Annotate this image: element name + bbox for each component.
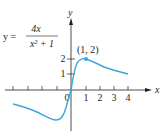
equation: y = 4x x² + 1 [3, 23, 58, 49]
equation-denominator: x² + 1 [29, 38, 54, 49]
y-axis-arrow-icon [69, 18, 73, 25]
x-tick-label-4: 4 [126, 92, 131, 103]
y-axis: y 2 1 [61, 7, 76, 131]
x-axis-arrow-icon [145, 88, 152, 92]
y-axis-label: y [67, 7, 73, 18]
max-point-label: (1, 2) [77, 44, 99, 56]
y-tick-label-1: 1 [61, 68, 66, 79]
x-axis: x 0 1 2 3 4 [5, 84, 160, 103]
equation-lhs: y = [3, 31, 17, 42]
function-graph: y = 4x x² + 1 y 2 1 x 0 1 2 3 4 (1, 2) [0, 0, 163, 134]
max-point-marker [84, 57, 88, 61]
function-curve [13, 59, 128, 120]
x-tick-label-2: 2 [98, 92, 103, 103]
x-tick-label-3: 3 [112, 92, 117, 103]
equation-numerator: 4x [31, 23, 41, 34]
y-tick-label-2: 2 [61, 53, 66, 64]
x-axis-label: x [154, 84, 160, 95]
x-tick-label-1: 1 [84, 92, 89, 103]
